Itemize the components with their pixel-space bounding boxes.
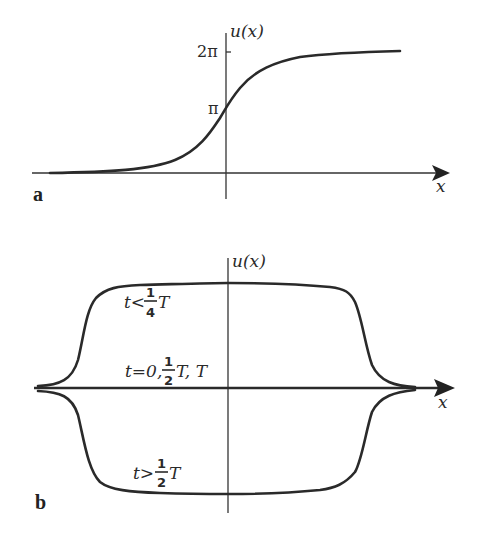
svg-text:t=0,: t=0, <box>125 361 162 381</box>
kink-curve <box>50 51 400 173</box>
x-axis-label: x <box>436 176 446 196</box>
tick-label-pi: π <box>208 99 219 118</box>
curve-label-lower: t> 1 2 T <box>133 456 182 490</box>
svg-text:2: 2 <box>164 373 173 388</box>
svg-text:T, T: T, T <box>176 361 209 381</box>
curve-label-middle: t=0, 1 2 T, T <box>125 354 209 388</box>
lower-curve <box>38 390 415 494</box>
svg-text:T: T <box>169 463 182 483</box>
svg-text:2: 2 <box>157 475 166 490</box>
svg-text:T: T <box>158 292 171 312</box>
curve-label-upper: t< 1 4 T <box>124 285 171 320</box>
upper-curve <box>38 283 415 387</box>
figure: u(x) 2π π x a u(x) x t< 1 4 T t=0, 1 2 T… <box>0 0 478 539</box>
panel-b: u(x) x t< 1 4 T t=0, 1 2 T, T t> 1 2 T b <box>34 251 455 513</box>
svg-text:t<: t< <box>124 292 145 312</box>
x-axis-label: x <box>438 392 448 412</box>
tick-label-2pi: 2π <box>197 42 218 61</box>
y-axis-label: u(x) <box>230 21 264 41</box>
svg-text:t>: t> <box>133 463 154 483</box>
panel-label-a: a <box>33 183 43 205</box>
svg-text:4: 4 <box>146 305 155 320</box>
y-axis-label: u(x) <box>232 251 266 271</box>
svg-text:1: 1 <box>157 456 166 471</box>
svg-text:1: 1 <box>164 354 173 369</box>
panel-label-b: b <box>35 491 46 513</box>
svg-text:1: 1 <box>146 285 155 300</box>
panel-a: u(x) 2π π x a <box>32 21 450 205</box>
